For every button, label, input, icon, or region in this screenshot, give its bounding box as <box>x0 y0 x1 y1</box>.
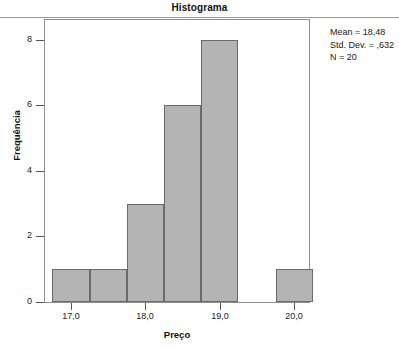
histogram-bar <box>276 269 313 302</box>
y-axis-title: Frequência <box>11 76 22 196</box>
stat-std-dev: Std. Dev. = ,632 <box>330 39 394 52</box>
y-axis-tick <box>36 236 44 237</box>
x-axis-tick-label: 20,0 <box>274 311 314 321</box>
histogram-bar <box>201 40 238 302</box>
y-axis-tick-label: 8 <box>6 34 32 44</box>
x-axis-tick <box>294 303 295 310</box>
y-axis-tick <box>36 105 44 106</box>
x-axis-tick <box>220 303 221 310</box>
title-divider <box>0 17 399 18</box>
y-axis-tick-label: 2 <box>6 230 32 240</box>
y-axis-tick-label: 0 <box>6 296 32 306</box>
x-axis-tick-label: 17,0 <box>51 311 91 321</box>
histogram-bar <box>164 105 201 302</box>
histogram-bars <box>45 20 309 302</box>
histogram-chart: Histograma 02468 17,018,019,020,0 Preço … <box>0 0 399 348</box>
x-axis-tick <box>71 303 72 310</box>
y-axis-tick <box>36 40 44 41</box>
stat-mean: Mean = 18,48 <box>330 26 394 39</box>
y-axis-tick <box>36 171 44 172</box>
histogram-bar <box>52 269 89 302</box>
chart-title: Histograma <box>0 2 399 13</box>
histogram-bar <box>127 204 164 302</box>
stat-n: N = 20 <box>330 51 394 64</box>
x-axis-tick-label: 19,0 <box>200 311 240 321</box>
y-axis-tick <box>36 302 44 303</box>
statistics-annotation: Mean = 18,48 Std. Dev. = ,632 N = 20 <box>330 26 394 64</box>
histogram-bar <box>90 269 127 302</box>
x-axis-title: Preço <box>44 329 310 340</box>
x-axis-tick <box>145 303 146 310</box>
x-axis-tick-label: 18,0 <box>125 311 165 321</box>
